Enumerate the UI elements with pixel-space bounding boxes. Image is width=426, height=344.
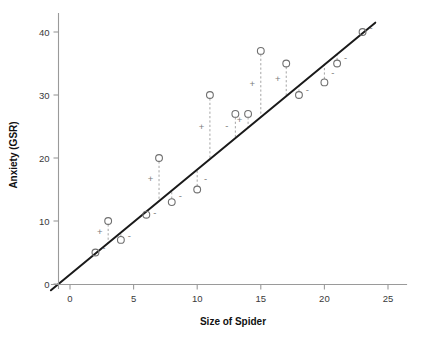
x-axis-title: Size of Spider	[200, 316, 266, 327]
plot-background	[0, 0, 426, 344]
residual-sign-negative: -	[179, 190, 182, 201]
residual-sign-positive: +	[275, 73, 281, 84]
y-axis-title: Anxiety (GSR)	[8, 121, 19, 188]
residual-sign-negative: -	[331, 67, 334, 78]
y-tick-label-40: 40	[39, 27, 50, 38]
residual-sign-negative: -	[306, 84, 309, 95]
residual-sign-negative: -	[102, 242, 105, 253]
residual-sign-positive: +	[199, 121, 205, 132]
plot-canvas: -+--+--+-+++---- 0510152025 010203040 Si…	[0, 0, 426, 344]
x-tick-label-0: 0	[67, 293, 72, 304]
y-tick-label-0: 0	[44, 279, 49, 290]
residual-sign-negative: -	[344, 52, 347, 63]
x-tick-label-20: 20	[319, 293, 330, 304]
residual-sign-positive: +	[250, 78, 256, 89]
y-tick-label-30: 30	[39, 90, 50, 101]
residual-sign-positive: +	[97, 226, 103, 237]
residual-sign-negative: -	[153, 207, 156, 218]
residual-sign-negative: -	[225, 120, 228, 131]
residual-sign-negative: -	[204, 173, 207, 184]
y-tick-label-20: 20	[39, 153, 50, 164]
residual-sign-positive: +	[237, 114, 243, 125]
y-tick-label-10: 10	[39, 216, 50, 227]
scatter-plot-figure: -+--+--+-+++---- 0510152025 010203040 Si…	[0, 0, 426, 344]
x-tick-label-5: 5	[131, 293, 136, 304]
x-tick-label-15: 15	[256, 293, 267, 304]
x-tick-label-25: 25	[383, 293, 394, 304]
x-tick-label-10: 10	[192, 293, 203, 304]
residual-sign-negative: -	[128, 230, 131, 241]
residual-sign-negative: -	[369, 22, 372, 33]
residual-sign-positive: +	[148, 173, 154, 184]
